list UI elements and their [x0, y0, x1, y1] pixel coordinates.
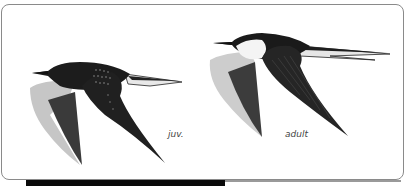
bird-illustration: [0, 0, 407, 186]
bottom-black-bar: [26, 180, 225, 186]
adult-label: adult: [285, 129, 308, 139]
adult-tern-figure: [210, 33, 390, 137]
bottom-gray-rule: [225, 180, 401, 182]
juvenile-tern-figure: [30, 62, 182, 165]
juvenile-label: juv.: [168, 129, 184, 139]
